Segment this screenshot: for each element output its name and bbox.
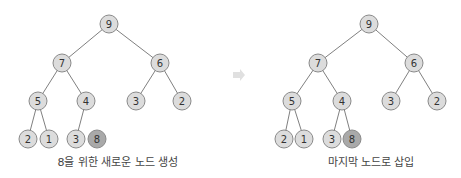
svg-text:5: 5 xyxy=(35,96,41,107)
heap-node: 7 xyxy=(53,54,71,72)
svg-text:7: 7 xyxy=(59,58,65,69)
svg-text:4: 4 xyxy=(339,96,345,107)
svg-text:3: 3 xyxy=(73,134,79,145)
heap-node: 9 xyxy=(100,15,118,33)
heap-node: 5 xyxy=(29,92,47,110)
svg-text:4: 4 xyxy=(83,96,89,107)
svg-text:2: 2 xyxy=(179,96,185,107)
svg-text:2: 2 xyxy=(281,134,287,145)
svg-text:8: 8 xyxy=(349,134,355,145)
heap-node: 6 xyxy=(151,54,169,72)
heap-node: 1 xyxy=(40,130,58,148)
svg-text:8: 8 xyxy=(94,134,100,145)
heap-node: 4 xyxy=(77,92,95,110)
arrow-right-icon xyxy=(233,69,245,81)
svg-text:5: 5 xyxy=(289,96,295,107)
heap-node: 7 xyxy=(309,54,327,72)
svg-text:9: 9 xyxy=(106,19,112,30)
tree-edge xyxy=(109,24,160,63)
heap-node: 3 xyxy=(323,130,341,148)
svg-text:6: 6 xyxy=(411,58,417,69)
svg-text:3: 3 xyxy=(133,96,139,107)
heap-node: 5 xyxy=(283,92,301,110)
svg-text:7: 7 xyxy=(315,58,321,69)
heap-node: 2 xyxy=(275,130,293,148)
heap-insertion-diagram: 9765432213897654322138 xyxy=(0,0,461,178)
new-heap-node: 8 xyxy=(343,130,361,148)
svg-text:9: 9 xyxy=(366,19,372,30)
svg-text:3: 3 xyxy=(329,134,335,145)
heap-node: 4 xyxy=(333,92,351,110)
new-heap-node: 8 xyxy=(88,130,106,148)
tree-edge xyxy=(318,24,369,63)
svg-text:1: 1 xyxy=(301,134,307,145)
caption-left: 8을 위한 새로운 노드 생성 xyxy=(58,153,179,169)
heap-node: 6 xyxy=(405,54,423,72)
svg-text:6: 6 xyxy=(157,58,163,69)
heap-node: 2 xyxy=(173,92,191,110)
heap-node: 3 xyxy=(67,130,85,148)
heap-node: 2 xyxy=(19,130,37,148)
svg-text:1: 1 xyxy=(46,134,52,145)
heap-node: 9 xyxy=(360,15,378,33)
heap-node: 3 xyxy=(382,92,400,110)
svg-text:2: 2 xyxy=(25,134,31,145)
heap-node: 2 xyxy=(428,92,446,110)
heap-node: 3 xyxy=(127,92,145,110)
caption-right: 마지막 노드로 삽입 xyxy=(328,153,415,169)
heap-node: 1 xyxy=(295,130,313,148)
svg-text:2: 2 xyxy=(434,96,440,107)
svg-text:3: 3 xyxy=(388,96,394,107)
